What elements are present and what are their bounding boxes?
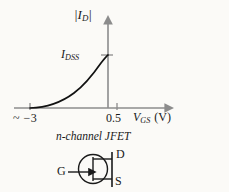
terminal-label-drain: D xyxy=(116,148,125,160)
y-axis-label: |ID| xyxy=(74,8,92,21)
terminal-label-gate: G xyxy=(57,165,66,177)
x-tick-label-05: 0.5 xyxy=(106,112,121,124)
y-axis-label-open: |I xyxy=(74,7,82,22)
idss-marker-label: IDSS xyxy=(61,48,79,60)
x-axis-unit: (V) xyxy=(150,110,171,124)
figure-canvas xyxy=(0,0,229,192)
x-axis-label-subscript: GS xyxy=(140,116,150,125)
idss-label-subscript: DSS xyxy=(65,53,79,62)
y-axis-label-close: | xyxy=(88,7,92,22)
transfer-curve xyxy=(30,55,108,108)
y-axis-label-subscript: D xyxy=(82,13,88,23)
figure-caption: n-channel JFET xyxy=(56,131,130,143)
x-tick-label-neg3: ~ −3 xyxy=(13,112,37,124)
jfet-transfer-characteristic-figure: |ID| IDSS ~ −3 0.5 VGS(V) n-channel JFET… xyxy=(0,0,229,192)
terminal-label-source: S xyxy=(115,175,122,187)
x-axis-label: VGS(V) xyxy=(133,111,171,123)
